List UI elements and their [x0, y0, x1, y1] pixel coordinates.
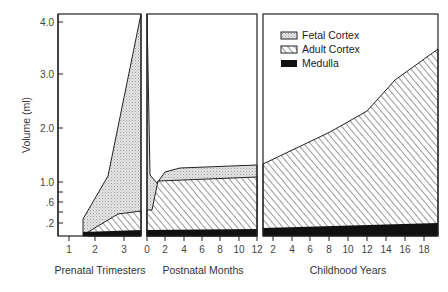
x-axis-title-prenatal: Prenatal Trimesters — [54, 264, 145, 276]
x-tick-label: 6 — [307, 244, 313, 255]
svg-text:Adult Cortex: Adult Cortex — [302, 43, 361, 55]
x-tick-label: 2 — [162, 244, 168, 255]
hatch-swatch-icon — [281, 46, 297, 53]
x-tick-label: 2 — [92, 244, 98, 255]
panel-postnatal: 0 2 4 6 8 10 12 Postnatal Months — [144, 14, 263, 276]
y-tick-label: 1.0 — [40, 177, 54, 188]
stipple-swatch-icon — [281, 32, 297, 39]
legend-item-fetal-cortex: Fetal Cortex — [281, 29, 360, 41]
fetal-cortex-area — [83, 14, 141, 236]
x-tick-label: 4 — [181, 244, 187, 255]
x-tick-label: 12 — [251, 244, 263, 255]
adult-cortex-area — [147, 177, 257, 236]
y-axis-title: Volume (ml) — [20, 97, 32, 153]
y-tick-label: 2.0 — [40, 123, 54, 134]
chart-canvas: 4.0 3.0 2.0 1.0 .6 .2 Volume (ml) 1 2 3 … — [0, 0, 448, 292]
svg-text:Fetal Cortex: Fetal Cortex — [302, 29, 360, 41]
medulla-area — [147, 229, 257, 236]
x-tick-label: 3 — [121, 244, 127, 255]
legend: Fetal Cortex Adult Cortex Medulla — [281, 29, 361, 69]
x-tick-label: 10 — [342, 244, 354, 255]
y-tick-label: 3.0 — [40, 69, 54, 80]
x-tick-label: 14 — [380, 244, 392, 255]
y-tick-label: 4.0 — [40, 17, 54, 28]
svg-text:Medulla: Medulla — [302, 57, 339, 69]
x-axis-title-postnatal: Postnatal Months — [162, 264, 243, 276]
y-tick-label: .6 — [46, 197, 55, 208]
x-tick-label: 8 — [217, 244, 223, 255]
x-axis-title-childhood: Childhood Years — [310, 264, 386, 276]
x-tick-label: 0 — [144, 244, 150, 255]
x-tick-label: 16 — [399, 244, 411, 255]
y-tick-label: .2 — [46, 218, 55, 229]
panel-prenatal: 1 2 3 Prenatal Trimesters — [54, 14, 145, 276]
legend-item-adult-cortex: Adult Cortex — [281, 43, 361, 55]
legend-item-medulla: Medulla — [281, 57, 339, 69]
x-tick-label: 2 — [270, 244, 276, 255]
x-tick-label: 1 — [66, 244, 72, 255]
x-tick-label: 6 — [199, 244, 205, 255]
x-tick-label: 4 — [289, 244, 295, 255]
x-tick-label: 12 — [361, 244, 373, 255]
adult-cortex-area — [263, 49, 438, 236]
x-tick-label: 18 — [418, 244, 430, 255]
y-axis: 4.0 3.0 2.0 1.0 .6 .2 Volume (ml) — [20, 14, 63, 236]
solid-swatch-icon — [281, 60, 297, 67]
x-tick-label: 10 — [233, 244, 245, 255]
x-tick-label: 8 — [326, 244, 332, 255]
